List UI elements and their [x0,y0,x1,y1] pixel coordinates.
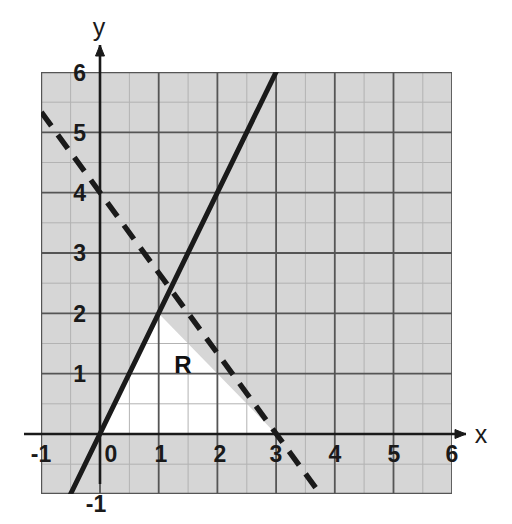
coordinate-plane: R -1 0 1 2 3 4 5 6 6 5 4 3 2 1 -1 x y [0,0,512,524]
x-tick-label-0: 0 [105,441,118,467]
x-axis-name: x [475,420,488,448]
x-tick-label--1: -1 [31,441,52,467]
x-tick-label-5: 5 [388,441,401,467]
x-tick-label-1: 1 [155,441,168,467]
x-tick-label-3: 3 [270,441,283,467]
y-tick-label-6: 6 [73,60,86,86]
y-tick-label-4: 4 [73,180,86,206]
y-tick-label-1: 1 [73,361,86,387]
y-tick-label--1: -1 [86,491,107,517]
y-tick-label-5: 5 [73,120,86,146]
region-r-label: R [174,351,191,378]
y-tick-label-2: 2 [73,301,86,327]
graph-figure: R -1 0 1 2 3 4 5 6 6 5 4 3 2 1 -1 x y [0,0,512,524]
x-tick-label-2: 2 [214,441,227,467]
x-axis-arrow [455,430,466,439]
x-tick-label-4: 4 [329,441,342,467]
y-axis-arrow [96,45,105,56]
y-tick-label-3: 3 [73,240,86,266]
x-tick-label-6: 6 [446,441,459,467]
y-axis-name: y [93,13,106,41]
